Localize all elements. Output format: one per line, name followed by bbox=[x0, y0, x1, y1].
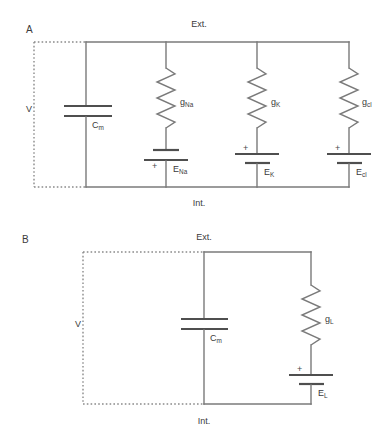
panel-b-capacitor-branch: Cm bbox=[181, 252, 228, 404]
panel-a-cl-polarity: + bbox=[335, 143, 340, 153]
panel-b-leak-emf-label: EL bbox=[318, 388, 328, 399]
panel-a-na-emf-label: ENa bbox=[173, 164, 188, 175]
panel-b-capacitor-label: Cm bbox=[210, 333, 222, 344]
panel-a-cl-emf-label: Ecl bbox=[356, 167, 367, 178]
panel-a-branch-cl: gcl + Ecl bbox=[327, 42, 372, 187]
panel-b-top-label: Ext. bbox=[196, 232, 212, 242]
panel-a-na-polarity: + bbox=[152, 161, 157, 171]
panel-a-letter: A bbox=[26, 24, 33, 35]
panel-a-cl-conductance-label: gcl bbox=[362, 97, 372, 108]
panel-a-na-resistor bbox=[157, 68, 175, 128]
panel-b-leak-resistor bbox=[302, 285, 320, 345]
panel-a-k-resistor bbox=[248, 68, 266, 128]
panel-a-cl-resistor bbox=[340, 68, 358, 128]
panel-b: B Ext. Int. V Cm gL + bbox=[22, 232, 334, 426]
panel-a-na-conductance-label: gNa bbox=[180, 97, 194, 108]
panel-b-leak-conductance-label: gL bbox=[325, 314, 334, 325]
panel-b-leak-polarity: + bbox=[297, 364, 302, 374]
panel-a-capacitor-label: Cm bbox=[92, 120, 104, 131]
panel-a: A Ext. Int. V Cm gNa + bbox=[26, 19, 372, 208]
panel-a-k-conductance-label: gK bbox=[271, 97, 281, 108]
figure-canvas: A Ext. Int. V Cm gNa + bbox=[0, 0, 386, 437]
panel-a-voltage-label: V bbox=[26, 104, 32, 114]
circuit-diagram-svg: A Ext. Int. V Cm gNa + bbox=[0, 0, 386, 437]
panel-a-branch-k: gK + EK bbox=[235, 42, 281, 187]
panel-a-k-polarity: + bbox=[243, 143, 248, 153]
panel-b-letter: B bbox=[22, 234, 29, 245]
panel-a-k-emf-label: EK bbox=[264, 167, 275, 178]
panel-a-bottom-label: Int. bbox=[193, 198, 206, 208]
panel-a-top-label: Ext. bbox=[191, 19, 207, 29]
panel-a-capacitor-branch: Cm bbox=[64, 42, 112, 187]
panel-b-branch-leak: gL + EL bbox=[289, 252, 334, 404]
panel-b-bottom-label: Int. bbox=[198, 416, 211, 426]
panel-b-voltage-label: V bbox=[75, 319, 81, 329]
panel-a-branch-na: gNa + ENa bbox=[144, 42, 194, 187]
